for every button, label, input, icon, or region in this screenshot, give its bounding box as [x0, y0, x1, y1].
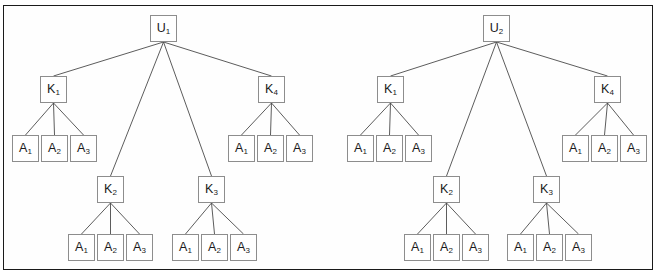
tree-left-k-node-l-k1-label: K1 [47, 83, 60, 96]
tree-left-l-k2-leaf-a3-label: A3 [133, 241, 146, 254]
tree-right-k-node-r-k2-label: K2 [440, 183, 453, 196]
tree-left-l-k3-leaf-a3-subscript: 3 [245, 246, 249, 255]
tree-left-k-node-l-k2: K2 [97, 176, 124, 203]
tree-right-k-node-r-k4: K4 [594, 76, 621, 103]
tree-left-l-k2-leaf-a1-label: A1 [75, 241, 88, 254]
tree-right-root-node-u2-subscript: 2 [499, 27, 503, 36]
tree-right-k-node-r-k3: K3 [533, 176, 560, 203]
diagram-frame [3, 5, 653, 270]
tree-right-r-k4-leaf-a2-label: A2 [598, 142, 611, 155]
tree-right-r-k4-leaf-a2: A2 [591, 135, 618, 162]
tree-right-root-node-u2-label: U2 [490, 22, 503, 35]
tree-right-r-k2-leaf-a3-subscript: 3 [477, 246, 481, 255]
tree-right-r-k3-leaf-a1-subscript: 1 [522, 246, 526, 255]
tree-right-k-node-r-k2-subscript: 2 [448, 188, 452, 197]
tree-left-l-k2-leaf-a2-label: A2 [104, 241, 117, 254]
tree-left-l-k2-leaf-a3-subscript: 3 [141, 246, 145, 255]
tree-right-r-k2-leaf-a1-label: A1 [411, 241, 424, 254]
tree-left-l-k4-leaf-a1-subscript: 1 [243, 147, 247, 156]
tree-left-root-node-u1-subscript: 1 [166, 27, 170, 36]
tree-left-l-k3-leaf-a1: A1 [172, 234, 199, 261]
tree-right-r-k2-leaf-a2-subscript: 2 [448, 246, 452, 255]
tree-left-l-k1-leaf-a2: A2 [41, 135, 68, 162]
tree-left-k-node-l-k1: K1 [40, 76, 67, 103]
tree-left-l-k1-leaf-a3-label: A3 [77, 142, 90, 155]
tree-left-l-k2-leaf-a1-subscript: 1 [83, 246, 87, 255]
tree-left-root-node-u1-label: U1 [157, 22, 170, 35]
tree-left-k-node-l-k4: K4 [258, 76, 285, 103]
tree-left-l-k1-leaf-a1-subscript: 1 [27, 147, 31, 156]
tree-right-r-k3-leaf-a2-subscript: 2 [551, 246, 555, 255]
tree-left-l-k1-leaf-a3: A3 [70, 135, 97, 162]
tree-left-l-k3-leaf-a3-label: A3 [237, 241, 250, 254]
tree-left-k-node-l-k4-subscript: 4 [273, 88, 277, 97]
tree-left-l-k4-leaf-a2: A2 [257, 135, 284, 162]
tree-left-l-k4-leaf-a3: A3 [286, 135, 313, 162]
tree-right-root-node-u2: U2 [483, 15, 510, 42]
tree-left-k-node-l-k4-label: K4 [265, 83, 278, 96]
tree-right-r-k4-leaf-a3: A3 [620, 135, 647, 162]
tree-right-r-k4-leaf-a3-label: A3 [627, 142, 640, 155]
tree-left-l-k1-leaf-a1-label: A1 [19, 142, 32, 155]
tree-right-r-k1-leaf-a1-label: A1 [354, 142, 367, 155]
tree-left-l-k1-leaf-a2-subscript: 2 [56, 147, 60, 156]
tree-right-k-node-r-k1: K1 [377, 76, 404, 103]
tree-right-k-node-r-k3-label: K3 [540, 183, 553, 196]
tree-right-r-k1-leaf-a3-subscript: 3 [420, 147, 424, 156]
tree-left-l-k3-leaf-a3: A3 [230, 234, 257, 261]
tree-left-k-node-l-k3-subscript: 3 [213, 188, 217, 197]
tree-left-l-k1-leaf-a3-subscript: 3 [85, 147, 89, 156]
tree-right-r-k2-leaf-a1-subscript: 1 [419, 246, 423, 255]
tree-left-l-k4-leaf-a3-subscript: 3 [301, 147, 305, 156]
tree-left-l-k4-leaf-a1: A1 [228, 135, 255, 162]
tree-left-k-node-l-k3: K3 [198, 176, 225, 203]
tree-right-r-k1-leaf-a3-label: A3 [412, 142, 425, 155]
tree-right-r-k2-leaf-a3: A3 [462, 234, 489, 261]
tree-right-r-k3-leaf-a3-label: A3 [572, 241, 585, 254]
tree-diagram-figure: U1K1A1A2A3K2A1A2A3K3A1A2A3K4A1A2A3U2K1A1… [0, 0, 661, 275]
tree-right-r-k3-leaf-a1-label: A1 [514, 241, 527, 254]
tree-right-k-node-r-k1-label: K1 [384, 83, 397, 96]
tree-left-l-k1-leaf-a1: A1 [12, 135, 39, 162]
tree-right-r-k1-leaf-a1-subscript: 1 [362, 147, 366, 156]
tree-right-r-k4-leaf-a3-subscript: 3 [635, 147, 639, 156]
tree-left-l-k4-leaf-a2-subscript: 2 [272, 147, 276, 156]
tree-left-l-k4-leaf-a1-label: A1 [235, 142, 248, 155]
tree-left-l-k3-leaf-a1-label: A1 [179, 241, 192, 254]
tree-left-root-node-u1: U1 [150, 15, 177, 42]
tree-right-k-node-r-k4-subscript: 4 [609, 88, 613, 97]
tree-right-r-k1-leaf-a1: A1 [347, 135, 374, 162]
tree-right-r-k3-leaf-a3: A3 [565, 234, 592, 261]
tree-right-r-k4-leaf-a1-label: A1 [569, 142, 582, 155]
tree-left-l-k2-leaf-a1: A1 [68, 234, 95, 261]
tree-right-r-k2-leaf-a2-label: A2 [440, 241, 453, 254]
tree-right-r-k4-leaf-a1: A1 [562, 135, 589, 162]
tree-right-r-k4-leaf-a2-subscript: 2 [606, 147, 610, 156]
tree-right-r-k1-leaf-a3: A3 [405, 135, 432, 162]
tree-right-r-k2-leaf-a3-label: A3 [469, 241, 482, 254]
tree-left-l-k2-leaf-a2: A2 [97, 234, 124, 261]
tree-right-k-node-r-k2: K2 [433, 176, 460, 203]
tree-left-l-k4-leaf-a2-label: A2 [264, 142, 277, 155]
tree-right-r-k3-leaf-a1: A1 [507, 234, 534, 261]
tree-left-k-node-l-k1-subscript: 1 [55, 88, 59, 97]
tree-right-r-k3-leaf-a2-label: A2 [543, 241, 556, 254]
tree-left-l-k3-leaf-a2-label: A2 [208, 241, 221, 254]
tree-left-k-node-l-k3-label: K3 [205, 183, 218, 196]
tree-left-l-k3-leaf-a1-subscript: 1 [187, 246, 191, 255]
tree-left-l-k3-leaf-a2-subscript: 2 [216, 246, 220, 255]
tree-left-l-k2-leaf-a3: A3 [126, 234, 153, 261]
tree-right-r-k4-leaf-a1-subscript: 1 [577, 147, 581, 156]
tree-left-l-k3-leaf-a2: A2 [201, 234, 228, 261]
tree-right-r-k2-leaf-a2: A2 [433, 234, 460, 261]
tree-right-k-node-r-k4-label: K4 [601, 83, 614, 96]
tree-right-r-k1-leaf-a2-subscript: 2 [391, 147, 395, 156]
tree-right-r-k1-leaf-a2-label: A2 [383, 142, 396, 155]
tree-right-r-k3-leaf-a2: A2 [536, 234, 563, 261]
tree-right-r-k1-leaf-a2: A2 [376, 135, 403, 162]
tree-left-k-node-l-k2-subscript: 2 [112, 188, 116, 197]
tree-right-r-k2-leaf-a1: A1 [404, 234, 431, 261]
tree-left-l-k2-leaf-a2-subscript: 2 [112, 246, 116, 255]
tree-right-r-k3-leaf-a3-subscript: 3 [580, 246, 584, 255]
tree-right-k-node-r-k3-subscript: 3 [548, 188, 552, 197]
